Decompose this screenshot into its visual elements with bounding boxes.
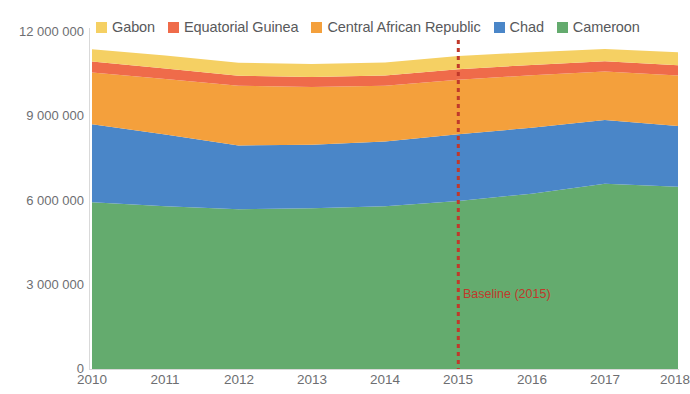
x-axis-tick-2018: 2018: [660, 372, 690, 387]
x-axis-tick-2017: 2017: [590, 372, 620, 387]
area-cameroon: [92, 184, 678, 369]
y-axis-tick-3000000: 3 000 000: [0, 277, 84, 292]
y-axis-tick-12000000: 12 000 000: [0, 24, 84, 39]
y-axis-tick-6000000: 6 000 000: [0, 193, 84, 208]
x-axis-tick-2010: 2010: [77, 372, 107, 387]
x-axis-line: [89, 369, 679, 370]
x-axis-tick-2011: 2011: [150, 372, 179, 387]
chart-container: Gabon Equatorial Guinea Central African …: [0, 0, 690, 394]
plot-area: [92, 28, 678, 369]
baseline-annotation-label: Baseline (2015): [463, 287, 551, 301]
y-axis-tick-0: 0: [0, 361, 84, 376]
x-axis-tick-2012: 2012: [224, 372, 254, 387]
y-axis-line: [89, 28, 90, 369]
x-axis-tick-2016: 2016: [517, 372, 547, 387]
x-axis-tick-2013: 2013: [297, 372, 327, 387]
x-axis-tick-2014: 2014: [370, 372, 400, 387]
stacked-area-svg: [92, 28, 678, 369]
y-axis-tick-9000000: 9 000 000: [0, 108, 84, 123]
chart-title-strip: [0, 0, 690, 9]
x-axis-tick-2015: 2015: [443, 372, 473, 387]
